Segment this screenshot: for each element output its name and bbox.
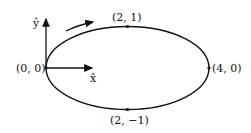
label-right: (4, 0) <box>212 62 242 75</box>
label-origin: (0, 0) <box>16 62 46 75</box>
label-bottom: (2, −1) <box>110 114 149 127</box>
x-axis-label: x̂ <box>90 72 97 85</box>
y-axis-label: ŷ <box>32 17 40 30</box>
direction-arrow <box>66 22 93 31</box>
label-top: (2, 1) <box>112 11 142 24</box>
point-bottom <box>126 108 129 111</box>
point-top <box>126 25 129 28</box>
ellipse-diagram: (0, 0) (2, 1) (4, 0) (2, −1) x̂ ŷ <box>0 0 251 133</box>
point-right <box>207 66 210 69</box>
